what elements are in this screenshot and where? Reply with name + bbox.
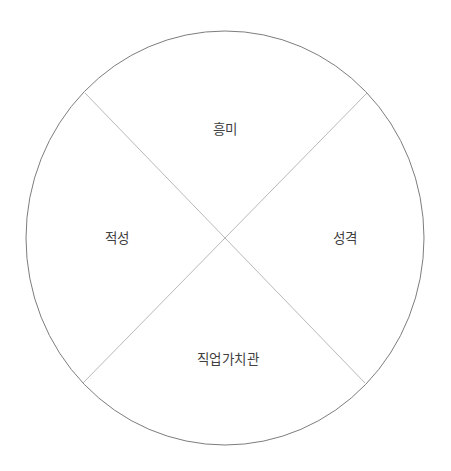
diagram-canvas xyxy=(0,0,451,471)
quadrant-label-top: 흥미 xyxy=(213,123,238,137)
quadrant-label-bottom: 직업가치관 xyxy=(197,353,259,367)
quadrant-circle-diagram: 흥미 성격 직업가치관 적성 xyxy=(0,0,451,471)
quadrant-label-right: 성격 xyxy=(333,232,358,246)
quadrant-label-left: 적성 xyxy=(105,232,130,246)
